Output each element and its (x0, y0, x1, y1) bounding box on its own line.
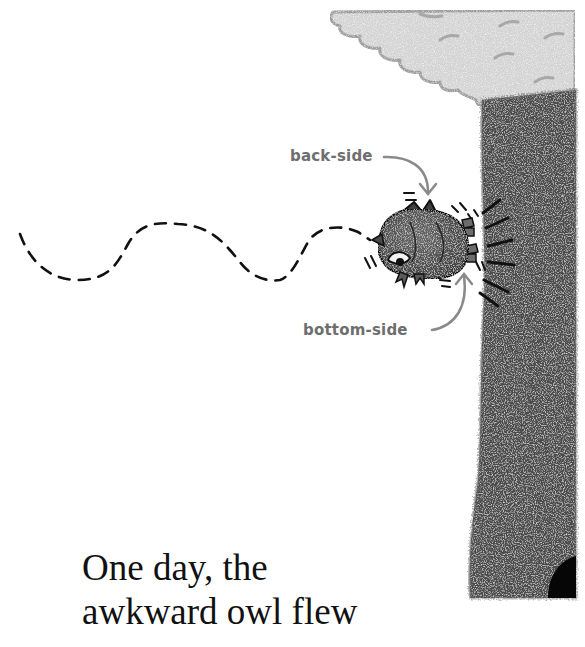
owl (372, 200, 478, 287)
tree-trunk (469, 90, 576, 598)
back-side-arrow (384, 157, 436, 194)
storybook-page: back-side bottom-side One day, the awkwa… (0, 0, 585, 647)
bottom-side-arrow (432, 274, 472, 330)
bottom-side-label: bottom-side (303, 321, 408, 339)
story-text: One day, the awkward owl flew (82, 546, 357, 634)
tree-foliage (331, 10, 575, 106)
flight-path (20, 223, 370, 280)
back-side-label: back-side (290, 147, 373, 165)
story-line-2: awkward owl flew (82, 590, 357, 634)
story-line-1: One day, the (82, 546, 357, 590)
